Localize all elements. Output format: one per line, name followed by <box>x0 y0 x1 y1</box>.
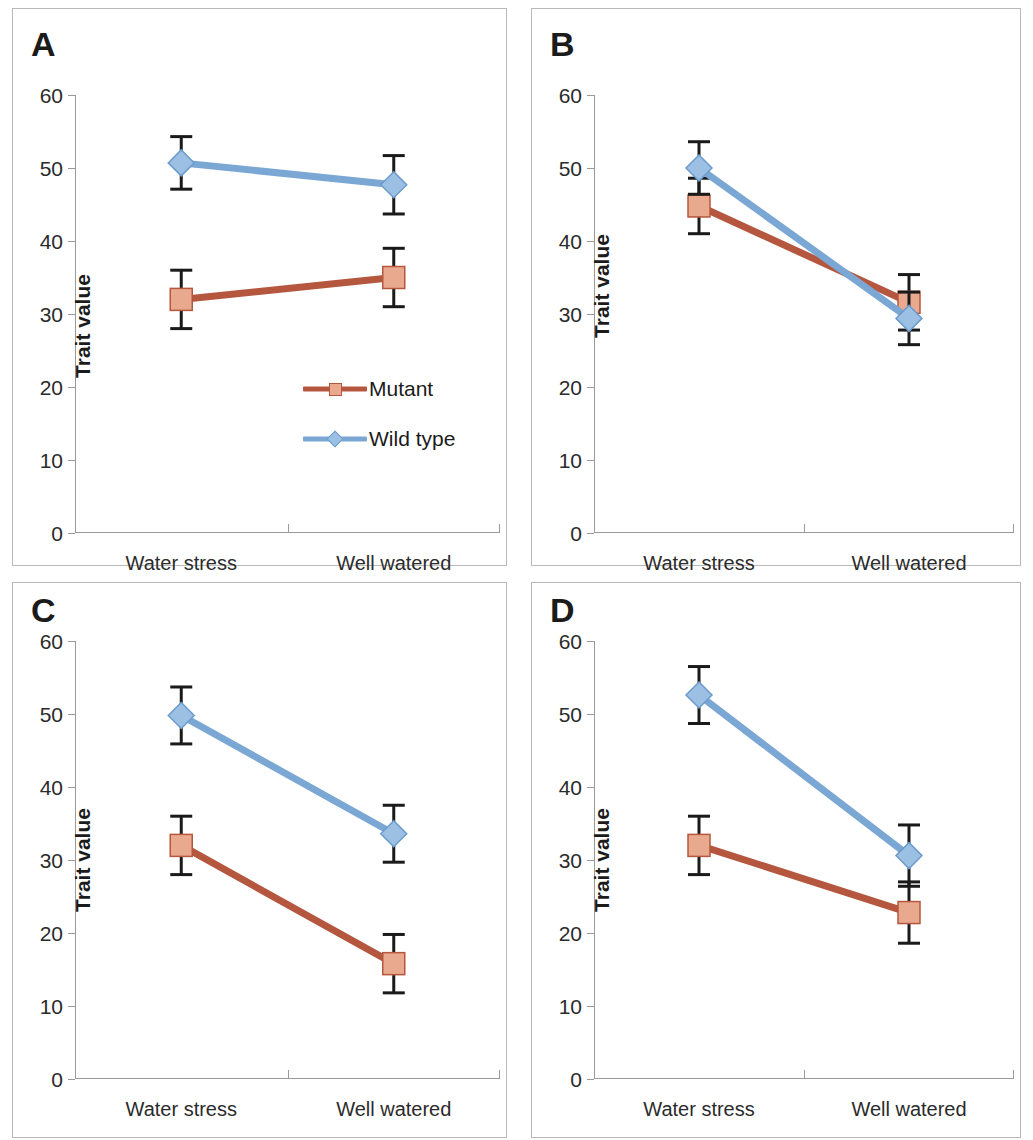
x-axis-category-label: Water stress <box>126 553 238 573</box>
y-axis-tick-label: 40 <box>559 231 582 252</box>
series-layer <box>75 95 500 533</box>
square-marker <box>688 195 710 217</box>
panel-a: A 0102030405060Water stressWell wateredT… <box>0 0 519 572</box>
legend-label: Mutant <box>369 377 433 401</box>
y-axis-tick-label: 40 <box>40 231 63 252</box>
y-axis-tick-label: 20 <box>40 923 63 944</box>
legend-item[interactable]: Mutant <box>303 377 455 401</box>
panel-d-frame: D 0102030405060Water stressWell wateredT… <box>531 582 1021 1138</box>
y-axis-title: Trait value <box>590 808 614 912</box>
y-axis-tick-label: 60 <box>559 631 582 652</box>
diamond-marker <box>686 155 712 181</box>
series-layer <box>75 641 500 1079</box>
y-axis-tick <box>68 641 75 642</box>
x-axis-category-label: Water stress <box>126 1099 238 1119</box>
square-marker <box>170 288 192 310</box>
plot-area-d: 0102030405060Water stressWell wateredTra… <box>594 641 1014 1079</box>
panel-b: B 0102030405060Water stressWell wateredT… <box>519 0 1033 572</box>
y-axis-tick <box>68 714 75 715</box>
diamond-marker <box>168 702 194 728</box>
y-axis-tick <box>587 1079 594 1080</box>
panel-c: C 0102030405060Water stressWell wateredT… <box>0 572 519 1140</box>
x-axis-tick <box>804 1070 805 1079</box>
y-axis-tick-label: 10 <box>40 450 63 471</box>
plot-area-b: 0102030405060Water stressWell wateredTra… <box>594 95 1014 533</box>
series-layer <box>594 641 1014 1079</box>
y-axis-tick <box>587 460 594 461</box>
series-wild-type <box>168 687 407 862</box>
x-axis-tick <box>288 1070 289 1079</box>
multi-panel-figure: A 0102030405060Water stressWell wateredT… <box>0 0 1033 1140</box>
series-wild-type <box>686 667 922 887</box>
series-mutant <box>170 816 405 993</box>
x-axis-tick <box>288 524 289 533</box>
series-wild-type <box>686 142 922 345</box>
legend-item[interactable]: Wild type <box>303 427 455 451</box>
series-line <box>699 845 909 912</box>
y-axis-tick-label: 0 <box>51 523 63 544</box>
y-axis-title: Trait value <box>71 274 95 378</box>
panel-grid: A 0102030405060Water stressWell wateredT… <box>0 0 1033 1140</box>
y-axis-tick <box>68 95 75 96</box>
y-axis-tick-label: 20 <box>40 377 63 398</box>
panel-a-frame: A 0102030405060Water stressWell wateredT… <box>12 8 507 566</box>
series-mutant <box>688 178 920 330</box>
x-axis-category-label: Well watered <box>851 553 966 573</box>
legend-label: Wild type <box>369 427 455 451</box>
x-axis-category-label: Water stress <box>643 1099 755 1119</box>
y-axis-tick <box>68 168 75 169</box>
y-axis-tick <box>68 460 75 461</box>
y-axis-tick-label: 60 <box>40 85 63 106</box>
y-axis-tick-label: 50 <box>559 158 582 179</box>
square-marker <box>329 383 342 396</box>
y-axis-tick-label: 60 <box>559 85 582 106</box>
x-axis-category-label: Water stress <box>643 553 755 573</box>
diamond-marker <box>896 843 922 869</box>
y-axis-tick-label: 50 <box>559 704 582 725</box>
y-axis-tick-label: 30 <box>559 304 582 325</box>
legend-key <box>303 380 367 398</box>
legend-key <box>303 430 367 448</box>
x-axis-tick <box>594 1070 595 1079</box>
y-axis-tick-label: 0 <box>570 1069 582 1090</box>
chart-legend: MutantWild type <box>303 377 455 451</box>
diamond-marker <box>168 150 194 176</box>
panel-label-b: B <box>550 27 575 61</box>
y-axis-title: Trait value <box>71 808 95 912</box>
series-mutant <box>170 248 405 328</box>
y-axis-tick <box>587 787 594 788</box>
y-axis-title: Trait value <box>590 234 614 338</box>
y-axis-tick <box>68 1079 75 1080</box>
y-axis-tick-label: 40 <box>40 777 63 798</box>
y-axis-tick-label: 10 <box>559 450 582 471</box>
y-axis-tick <box>68 533 75 534</box>
series-line <box>181 163 394 185</box>
y-axis-tick-label: 0 <box>570 523 582 544</box>
y-axis-tick <box>587 641 594 642</box>
y-axis-tick <box>587 95 594 96</box>
y-axis-tick-label: 60 <box>40 631 63 652</box>
plot-area-c: 0102030405060Water stressWell wateredTra… <box>75 641 500 1079</box>
x-axis-tick <box>75 524 76 533</box>
y-axis-tick <box>68 387 75 388</box>
series-line <box>699 168 909 318</box>
panel-label-a: A <box>31 27 56 61</box>
square-marker <box>898 902 920 924</box>
panel-label-d: D <box>550 593 575 627</box>
y-axis-tick-label: 50 <box>40 158 63 179</box>
y-axis-tick-label: 30 <box>559 850 582 871</box>
square-marker <box>383 953 405 975</box>
x-axis-category-label: Well watered <box>851 1099 966 1119</box>
y-axis-tick <box>587 168 594 169</box>
x-axis-tick <box>804 524 805 533</box>
diamond-marker <box>327 431 344 448</box>
y-axis-tick <box>68 1006 75 1007</box>
y-axis-tick <box>587 533 594 534</box>
square-marker <box>898 291 920 313</box>
x-axis-tick <box>499 524 500 533</box>
series-line <box>181 278 394 300</box>
series-line <box>181 715 394 833</box>
panel-d: D 0102030405060Water stressWell wateredT… <box>519 572 1033 1140</box>
panel-label-c: C <box>31 593 56 627</box>
square-marker <box>688 834 710 856</box>
